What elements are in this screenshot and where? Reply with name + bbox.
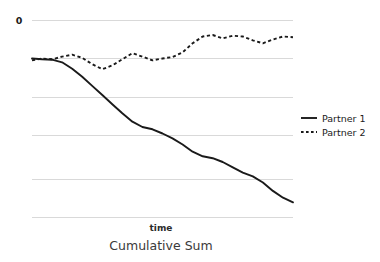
ytick-label-zero: 0	[16, 15, 23, 26]
x-axis-title: time	[150, 223, 173, 233]
legend-entry-partner-2[interactable]: Partner 2	[301, 127, 366, 138]
legend-entry-partner-1[interactable]: Partner 1	[301, 113, 366, 124]
series-group	[32, 35, 293, 202]
legend-label-partner-2: Partner 2	[322, 127, 366, 138]
legend: Partner 1 Partner 2	[301, 113, 366, 138]
gridlines-group	[32, 21, 293, 218]
chart-canvas: 0 Partner 1 Partner 2 time Cumulative Su…	[0, 0, 380, 262]
series-line-partner-1	[32, 59, 293, 203]
cumulative-sum-chart: 0 Partner 1 Partner 2 time Cumulative Su…	[0, 0, 380, 262]
legend-label-partner-1: Partner 1	[322, 113, 366, 124]
series-line-partner-2	[32, 35, 293, 69]
chart-caption: Cumulative Sum	[109, 238, 212, 253]
